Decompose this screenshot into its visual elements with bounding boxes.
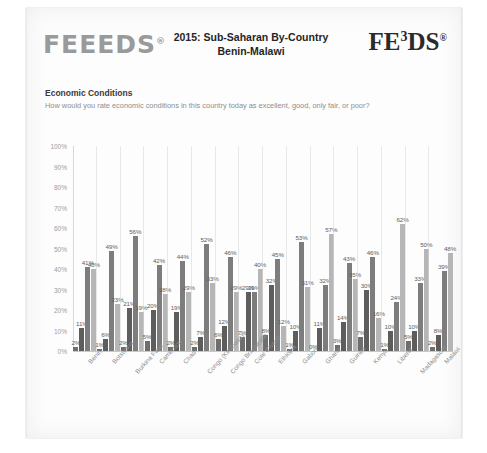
- y-axis-tick: 60%: [54, 225, 67, 232]
- x-axis-label: Madagascar: [406, 354, 430, 424]
- bar-value-label: 42%: [153, 257, 165, 264]
- fe3ds-logo-prefix: FE: [369, 28, 401, 55]
- bar[interactable]: 11%: [79, 328, 84, 351]
- bar[interactable]: 7%: [198, 337, 203, 351]
- bar[interactable]: 14%: [341, 322, 346, 351]
- fe3ds-logo: FE3DS®: [369, 28, 447, 56]
- x-axis-label: Cote d'Ivoire: [239, 354, 263, 424]
- y-axis-tick: 20%: [54, 307, 67, 314]
- y-axis-tick: 50%: [54, 245, 67, 252]
- x-axis-label: Ethiopia: [263, 354, 287, 424]
- x-axis-label: Congo Brazzaville: [216, 354, 240, 424]
- y-axis-tick: 90%: [54, 163, 67, 170]
- bar[interactable]: 41%: [85, 267, 90, 351]
- bar-chart: 0%10%20%30%40%50%60%70%80%90%100% 2%11%4…: [37, 138, 457, 428]
- bar[interactable]: 33%: [210, 283, 215, 351]
- bar-group: 1%6%49%23%: [97, 146, 121, 351]
- bar[interactable]: 11%: [317, 328, 322, 351]
- y-axis-tick: 70%: [54, 204, 67, 211]
- x-axis-label: Ghana: [311, 354, 335, 424]
- bar-group: 8%32%45%12%: [263, 146, 287, 351]
- bar[interactable]: 6%: [216, 339, 221, 351]
- bar[interactable]: 24%: [394, 302, 399, 351]
- bar-group: 2%19%44%29%: [168, 146, 192, 351]
- x-axis-label: Chad: [168, 354, 192, 424]
- bar[interactable]: 39%: [442, 271, 447, 351]
- bar[interactable]: 57%: [329, 234, 334, 351]
- bar[interactable]: 33%: [418, 283, 423, 351]
- bar[interactable]: 40%: [91, 269, 96, 351]
- bar-group: 6%12%46%29%: [216, 146, 240, 351]
- bar-group: 3%14%43%35%: [334, 146, 358, 351]
- bar[interactable]: 44%: [180, 261, 185, 351]
- bar-group: 2%8%39%48%: [429, 146, 453, 351]
- bar[interactable]: 10%: [388, 331, 393, 352]
- bar-value-label: 46%: [367, 249, 379, 256]
- y-axis-tick: 40%: [54, 266, 67, 273]
- x-axis-label: Kenya: [358, 354, 382, 424]
- x-axis-label: Gabon: [287, 354, 311, 424]
- bar-group: 5%20%42%28%: [144, 146, 168, 351]
- y-axis-tick: 80%: [54, 184, 67, 191]
- bar-group: 1%10%53%31%: [287, 146, 311, 351]
- x-axis-label: Congo (Kinshasa): [192, 354, 216, 424]
- bar[interactable]: 30%: [364, 290, 369, 352]
- bar[interactable]: 6%: [103, 339, 108, 351]
- bar[interactable]: 50%: [424, 249, 429, 352]
- report-header: FEEEDS® 2015: Sub-Saharan By-Country Ben…: [27, 24, 461, 76]
- bar-group: 5%10%33%50%: [406, 146, 430, 351]
- survey-question: How would you rate economic conditions i…: [45, 101, 385, 111]
- bar-value-label: 53%: [295, 234, 307, 241]
- bar-value-label: 52%: [200, 236, 212, 243]
- bar[interactable]: 46%: [228, 257, 233, 351]
- x-axis-label: Burkina Faso: [121, 354, 145, 424]
- bar-value-label: 48%: [444, 245, 456, 252]
- x-axis-label: Guinea: [334, 354, 358, 424]
- bar-value-label: 46%: [224, 249, 236, 256]
- bar[interactable]: 29%: [246, 292, 251, 351]
- bar[interactable]: 52%: [204, 244, 209, 351]
- fe3ds-registered-mark: ®: [440, 32, 447, 43]
- y-axis: 0%10%20%30%40%50%60%70%80%90%100%: [37, 146, 71, 351]
- bar[interactable]: 32%: [323, 285, 328, 351]
- bar-group: 1%10%24%62%: [382, 146, 406, 351]
- bar-group: 7%29%29%40%: [239, 146, 263, 351]
- y-axis-tick: 100%: [50, 143, 67, 150]
- bar-value-label: 45%: [272, 251, 284, 258]
- bar-group: 2%21%56%19%: [121, 146, 145, 351]
- x-axis-label: Benin: [73, 354, 97, 424]
- bar-value-label: 44%: [177, 253, 189, 260]
- bar[interactable]: 2%: [430, 347, 435, 351]
- bar[interactable]: 56%: [133, 236, 138, 351]
- bar-value-label: 56%: [129, 228, 141, 235]
- bar[interactable]: 53%: [299, 242, 304, 351]
- bar-groups: 2%11%41%40%1%6%49%23%2%21%56%19%5%20%42%…: [73, 146, 453, 351]
- bar[interactable]: 2%: [73, 347, 78, 351]
- x-axis-label: Cameroon: [144, 354, 168, 424]
- y-axis-tick: 30%: [54, 286, 67, 293]
- bar[interactable]: 46%: [370, 257, 375, 351]
- bar[interactable]: 5%: [145, 341, 150, 351]
- bar[interactable]: 48%: [448, 253, 453, 351]
- bar[interactable]: 42%: [157, 265, 162, 351]
- section-block: Economic Conditions How would you rate e…: [45, 88, 435, 111]
- bar[interactable]: 10%: [412, 331, 417, 352]
- bar[interactable]: 35%: [353, 279, 358, 351]
- bar-value-label: 43%: [343, 255, 355, 262]
- document-page: FEEEDS® 2015: Sub-Saharan By-Country Ben…: [26, 8, 462, 438]
- bar[interactable]: 19%: [139, 312, 144, 351]
- x-axis-label: Liberia: [382, 354, 406, 424]
- bar-group: 2%7%52%33%: [192, 146, 216, 351]
- x-axis-label: Botswana: [97, 354, 121, 424]
- y-axis-tick: 10%: [54, 327, 67, 334]
- section-title: Economic Conditions: [45, 88, 435, 98]
- fe3ds-logo-superscript: 3: [401, 29, 408, 44]
- fe3ds-logo-suffix: DS: [408, 28, 440, 55]
- bar-group: 0%11%32%57%: [311, 146, 335, 351]
- bar-group: 7%30%46%16%: [358, 146, 382, 351]
- x-axis-labels: BeninBotswanaBurkina FasoCameroonChadCon…: [73, 354, 453, 424]
- plot-area: 2%11%41%40%1%6%49%23%2%21%56%19%5%20%42%…: [73, 146, 453, 351]
- bar-group: 2%11%41%40%: [73, 146, 97, 351]
- bar[interactable]: 31%: [305, 287, 310, 351]
- bar-value-label: 49%: [105, 243, 117, 250]
